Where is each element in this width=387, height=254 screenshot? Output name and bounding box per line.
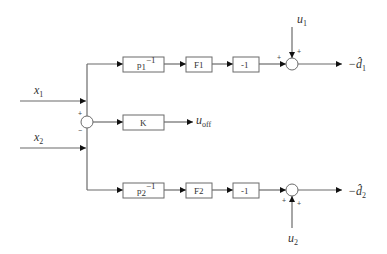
u1-label: u1 xyxy=(297,12,307,28)
plus-sign: + xyxy=(78,110,82,117)
d1-hat-output-label: −d̂1 xyxy=(348,57,366,73)
main-summing-junction xyxy=(81,116,93,128)
arrow-icon xyxy=(280,61,286,67)
neg-one-bottom-label: -1 xyxy=(241,186,249,196)
k-label: K xyxy=(140,118,147,128)
x2-label: x2 xyxy=(33,130,43,146)
arrow-icon xyxy=(336,61,342,67)
arrow-icon xyxy=(289,52,295,58)
arrow-icon xyxy=(227,61,233,67)
arrow-icon xyxy=(336,187,342,193)
block-diagram: x1 x2 + − p1−1 F1 -1 + + u1 −d̂1 K uoff … xyxy=(0,0,387,254)
arrow-icon xyxy=(180,187,186,193)
d2-hat-output-label: −d̂2 xyxy=(348,184,366,200)
f2-label: F2 xyxy=(194,186,204,196)
u-off-output-label: uoff xyxy=(196,113,212,129)
arrow-icon xyxy=(280,187,286,193)
minus-sign: − xyxy=(78,127,82,134)
arrow-icon xyxy=(117,119,123,125)
x1-arrow-icon xyxy=(80,98,86,104)
svg-text:+: + xyxy=(277,54,281,61)
x1-label: x1 xyxy=(33,83,43,99)
svg-text:+: + xyxy=(282,197,286,204)
arrow-icon xyxy=(187,119,193,125)
x2-arrow-icon xyxy=(80,145,86,151)
f1-label: F1 xyxy=(194,60,204,70)
neg-one-top-label: -1 xyxy=(241,60,249,70)
svg-text:+: + xyxy=(297,200,301,207)
arrow-icon xyxy=(180,61,186,67)
arrow-icon xyxy=(227,187,233,193)
svg-text:+: + xyxy=(297,48,301,55)
top-summing-junction xyxy=(286,58,298,70)
arrow-icon xyxy=(289,196,295,202)
arrow-icon xyxy=(117,61,123,67)
bottom-summing-junction xyxy=(286,184,298,196)
arrow-icon xyxy=(117,187,123,193)
u2-label: u2 xyxy=(288,231,298,247)
